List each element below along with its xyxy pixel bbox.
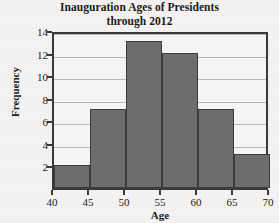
x-tick-label: 65 <box>218 196 246 208</box>
x-tick-label: 40 <box>38 196 66 208</box>
x-tick-mark <box>159 190 161 195</box>
chart-title-line-1: Inauguration Ages of Presidents <box>0 1 279 15</box>
y-tick-label: 12 <box>22 50 48 61</box>
x-tick-mark <box>267 190 269 195</box>
plot-area <box>52 32 268 190</box>
bar-series <box>54 34 266 188</box>
bar <box>198 109 234 188</box>
chart-title: Inauguration Ages of Presidents through … <box>0 1 279 28</box>
y-tick-label: 2 <box>22 162 48 173</box>
x-tick-mark <box>231 190 233 195</box>
x-tick-mark <box>123 190 125 195</box>
x-tick-label: 70 <box>254 196 279 208</box>
x-tick-mark <box>51 190 53 195</box>
y-tick-label: 6 <box>22 117 48 128</box>
y-tick-label: 8 <box>22 95 48 106</box>
bar <box>90 109 126 188</box>
y-tick-label: 4 <box>22 140 48 151</box>
x-tick-label: 45 <box>74 196 102 208</box>
x-tick-label: 55 <box>146 196 174 208</box>
y-tick-label: 10 <box>22 72 48 83</box>
bar <box>234 154 270 188</box>
y-axis-label: Frequency <box>9 42 21 142</box>
y-tick-label: 14 <box>22 27 48 38</box>
bar <box>162 53 198 188</box>
x-tick-mark <box>87 190 89 195</box>
x-tick-label: 60 <box>182 196 210 208</box>
x-tick-label: 50 <box>110 196 138 208</box>
x-axis-label: Age <box>52 209 268 221</box>
bar <box>126 41 162 188</box>
x-tick-mark <box>195 190 197 195</box>
histogram-figure: Inauguration Ages of Presidents through … <box>0 0 279 223</box>
bar <box>54 165 90 188</box>
